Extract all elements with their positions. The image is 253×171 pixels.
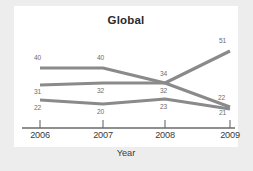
- data-label-s3-2006: 22: [34, 104, 41, 111]
- data-label-s1-2007: 40: [97, 54, 104, 61]
- x-axis-title: Year: [14, 148, 238, 158]
- x-tick-label-2008: 2008: [145, 130, 185, 140]
- x-tick-label-2009: 2009: [210, 130, 250, 140]
- line-chart-plot: [14, 6, 238, 147]
- data-label-s1-2008: 34: [160, 70, 167, 77]
- x-tick-label-2006: 2006: [20, 130, 60, 140]
- chart-card: Global 40 40 34 22 31 32 32 51 22 20: [14, 6, 238, 147]
- data-label-s2-2007: 32: [97, 87, 104, 94]
- data-label-s3-2009: 21: [219, 109, 226, 116]
- data-label-s3-2007: 20: [97, 108, 104, 115]
- data-label-s2-2008: 32: [160, 87, 167, 94]
- data-label-s2-2006: 31: [34, 88, 41, 95]
- data-label-s2-2009: 51: [219, 37, 226, 44]
- data-label-s1-2009: 22: [218, 94, 225, 101]
- data-label-s3-2008: 23: [160, 103, 167, 110]
- x-tick-label-2007: 2007: [83, 130, 123, 140]
- data-label-s1-2006: 40: [34, 54, 41, 61]
- chart-container: Global 40 40 34 22 31 32 32 51 22 20: [0, 0, 253, 171]
- series-3-line: [40, 99, 230, 109]
